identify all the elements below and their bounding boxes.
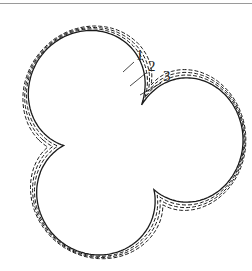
leader-line (123, 62, 134, 72)
leader-line (130, 73, 146, 86)
curve-1 (28, 31, 243, 256)
lobed-contour-figure: 123 (0, 0, 252, 271)
curve-label: 2 (148, 58, 156, 74)
contour-curves (23, 26, 246, 259)
curve-label: 1 (136, 47, 144, 63)
curve-2 (26, 29, 244, 256)
diagram-canvas: 123 (0, 0, 252, 271)
curve-label: 3 (163, 68, 171, 84)
